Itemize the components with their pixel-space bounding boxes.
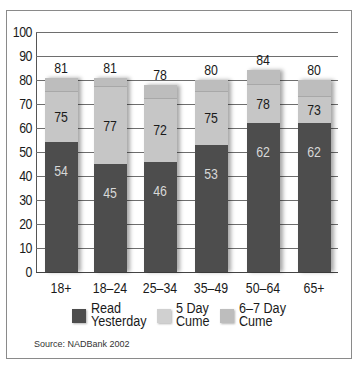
segment-read-yesterday — [94, 164, 127, 272]
segment-read-yesterday — [144, 162, 177, 272]
gridline — [36, 224, 338, 225]
y-tick-label: 90 — [7, 49, 32, 63]
value-label-5-day: 73 — [296, 103, 331, 117]
value-label-5-day: 75 — [193, 111, 228, 125]
gridline — [36, 200, 338, 201]
gridline — [36, 56, 338, 57]
y-tick-label: 0 — [7, 265, 32, 279]
y-tick-label: 60 — [7, 121, 32, 135]
x-tick-label: 65+ — [292, 280, 336, 296]
gridline — [36, 152, 338, 153]
segment-6-7-day-cume — [45, 78, 78, 92]
x-tick-label: 35–49 — [189, 280, 233, 296]
legend-label-line: Cume — [239, 315, 293, 328]
gridline — [36, 128, 338, 129]
x-tick-label: 18+ — [39, 280, 83, 296]
y-tick-label: 10 — [7, 241, 32, 255]
value-label-6-7-day: 81 — [43, 61, 78, 75]
x-tick-label: 25–34 — [138, 280, 182, 296]
gridline — [36, 32, 338, 33]
segment-read-yesterday — [195, 145, 228, 272]
gridline — [36, 248, 338, 249]
legend-item-6-7-day-cume: 6–7 Day Cume — [220, 302, 299, 328]
value-label-6-7-day: 80 — [193, 63, 228, 77]
segment-6-7-day-cume — [247, 70, 280, 84]
x-tick-label: 18–24 — [88, 280, 132, 296]
legend-swatch-icon — [220, 309, 234, 323]
value-label-5-day: 75 — [43, 110, 78, 124]
bar-1 — [94, 78, 127, 272]
gridline — [36, 176, 338, 177]
value-label-read-yesterday: 62 — [296, 145, 331, 159]
value-label-read-yesterday: 46 — [142, 184, 177, 198]
value-label-6-7-day: 78 — [142, 68, 177, 82]
value-label-6-7-day: 84 — [245, 53, 280, 67]
value-label-5-day: 72 — [142, 123, 177, 137]
segment-6-7-day-cume — [94, 78, 127, 88]
value-label-5-day: 77 — [92, 119, 127, 133]
y-tick-label: 20 — [7, 217, 32, 231]
gridline — [36, 104, 338, 105]
legend-swatch-icon — [72, 309, 86, 323]
legend-swatch-icon — [157, 309, 171, 323]
legend-label-line: Yesterday — [91, 315, 145, 328]
y-tick-label: 40 — [7, 169, 32, 183]
x-axis-line — [36, 272, 338, 273]
value-label-6-7-day: 81 — [92, 61, 127, 75]
segment-6-7-day-cume — [144, 85, 177, 99]
value-label-read-yesterday: 54 — [43, 164, 78, 178]
value-label-5-day: 78 — [245, 97, 280, 111]
bar-2 — [144, 85, 177, 272]
legend-label: 6–7 Day Cume — [239, 302, 293, 328]
segment-read-yesterday — [45, 142, 78, 272]
value-label-6-7-day: 80 — [296, 63, 331, 77]
x-tick-label: 50–64 — [241, 280, 285, 296]
segment-6-7-day-cume — [298, 80, 331, 97]
y-tick-label: 70 — [7, 97, 32, 111]
y-tick-label: 80 — [7, 73, 32, 87]
gridline — [36, 80, 338, 81]
y-tick-label: 100 — [7, 25, 32, 39]
value-label-read-yesterday: 45 — [92, 186, 127, 200]
legend-label: Read Yesterday — [91, 302, 145, 328]
y-tick-label: 50 — [7, 145, 32, 159]
value-label-read-yesterday: 53 — [193, 167, 228, 181]
source-note: Source: NADBank 2002 — [34, 339, 130, 349]
legend-item-read-yesterday: Read Yesterday — [72, 302, 151, 328]
y-tick-label: 30 — [7, 193, 32, 207]
segment-6-7-day-cume — [195, 80, 228, 92]
value-label-read-yesterday: 62 — [245, 145, 280, 159]
